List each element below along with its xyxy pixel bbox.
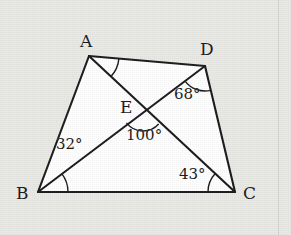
- angle-label-d-68: 68°: [174, 87, 201, 102]
- vertex-label-c: C: [243, 185, 256, 202]
- angle-label-c-43: 43°: [179, 167, 206, 182]
- vertex-label-e: E: [120, 99, 132, 116]
- vertex-label-a: A: [80, 33, 92, 50]
- page-margin-rule: [278, 0, 279, 235]
- angle-label-b-32: 32°: [56, 137, 83, 152]
- diagram-canvas: A B C D E 68° 100° 32° 43°: [0, 0, 291, 235]
- vertex-label-b: B: [16, 185, 29, 202]
- angle-label-e-100: 100°: [126, 128, 162, 143]
- vertex-label-d: D: [200, 41, 214, 58]
